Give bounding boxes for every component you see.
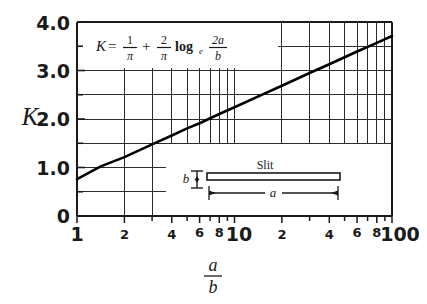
equation-plus: + bbox=[142, 38, 150, 54]
x-tick-label-60: 6 bbox=[353, 225, 362, 240]
x-tick-label-4: 4 bbox=[167, 227, 176, 242]
inset-title: Slit bbox=[257, 158, 274, 172]
x-tick-label-8: 8 bbox=[215, 225, 224, 240]
equation-log-base: e bbox=[199, 46, 203, 56]
chart-figure: 4.0 3.0 2.0 1.0 0 K 1 2 4 6 8 10 2 4 6 8… bbox=[0, 0, 427, 304]
x-tick-label-2: 2 bbox=[120, 227, 129, 242]
equation-term3-denominator: b bbox=[215, 49, 221, 63]
x-axis-label-denominator: b bbox=[209, 277, 218, 297]
x-tick-label-40: 4 bbox=[325, 227, 334, 242]
x-tick-label-1: 1 bbox=[70, 223, 83, 245]
x-axis-label-numerator: a bbox=[209, 255, 218, 275]
equation-term1-numerator: 1 bbox=[127, 33, 133, 47]
y-tick-label-0: 0 bbox=[57, 205, 70, 227]
equation-term3-numerator: 2a bbox=[212, 33, 224, 47]
equation-lhs: K bbox=[95, 38, 107, 54]
y-axis-label: K bbox=[21, 103, 40, 130]
equation-term1-denominator: π bbox=[127, 49, 134, 63]
x-tick-label-20: 2 bbox=[277, 227, 286, 242]
y-tick-label-4: 4.0 bbox=[36, 12, 70, 34]
y-tick-label-1: 1.0 bbox=[36, 157, 70, 179]
x-tick-label-10: 10 bbox=[226, 223, 252, 245]
equation-term2-numerator: 2 bbox=[161, 33, 167, 47]
equation-term2-denominator: π bbox=[161, 49, 168, 63]
equation-log: log bbox=[175, 39, 193, 54]
inset-width-label-text: a bbox=[270, 185, 277, 200]
x-tick-label-100: 100 bbox=[380, 223, 420, 245]
equation-equals: = bbox=[108, 38, 116, 54]
y-tick-label-3: 3.0 bbox=[36, 60, 70, 82]
y-tick-label-2: 2.0 bbox=[36, 108, 70, 130]
chart-svg: 4.0 3.0 2.0 1.0 0 K 1 2 4 6 8 10 2 4 6 8… bbox=[0, 0, 427, 304]
inset-slit-shape bbox=[207, 173, 340, 180]
x-tick-label-6: 6 bbox=[195, 225, 204, 240]
inset-height-label: b bbox=[183, 171, 190, 186]
